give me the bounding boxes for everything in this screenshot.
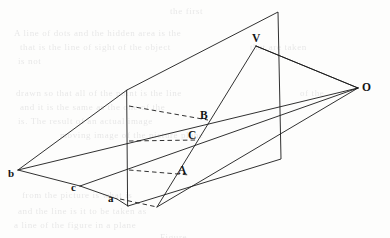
point-label-B: B (200, 110, 208, 122)
ground-sheet-lower-edge (117, 199, 128, 206)
point-label-C: C (188, 130, 196, 142)
ground-sheet-upper-edge (18, 90, 127, 170)
point-label-A: A (178, 165, 186, 177)
point-label-a-lower: a (108, 193, 114, 204)
point-label-b-lower: b (8, 168, 14, 179)
image-edge-V-to-O (256, 46, 358, 88)
hidden-chord-c-to-C (129, 140, 197, 141)
diagram-canvas (0, 0, 390, 238)
point-label-c-lower: c (71, 182, 76, 193)
image-edge-V-to-F (157, 46, 256, 207)
ray-O-to-a (157, 88, 358, 207)
perspective-diagram: the firstA line of dots and the hidden a… (0, 0, 390, 238)
point-label-V: V (252, 33, 260, 45)
ray-O-to-c (80, 88, 358, 186)
point-label-O: O (362, 82, 371, 94)
hidden-chord-a-to-F (120, 199, 157, 207)
hidden-chord-b-to-B (129, 106, 208, 120)
